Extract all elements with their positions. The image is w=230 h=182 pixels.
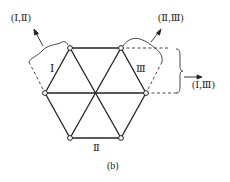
- region-label-left: Ⅰ: [50, 62, 54, 74]
- hexagon-diagram: (Ⅰ,Ⅱ) (Ⅱ,Ⅲ) (Ⅰ,Ⅲ) Ⅰ Ⅲ Ⅱ (b): [0, 0, 230, 182]
- node: [43, 91, 48, 96]
- pair-label-right: (Ⅰ,Ⅲ): [192, 79, 215, 91]
- node: [144, 91, 149, 96]
- cut-curves: [29, 38, 162, 62]
- right-brace: [176, 49, 183, 93]
- hexagon-edges: [45, 48, 146, 138]
- node: [68, 46, 73, 51]
- region-label-bottom: Ⅱ: [93, 142, 100, 153]
- pair-label-top-left: (Ⅰ,Ⅱ): [11, 12, 31, 24]
- pair-label-top-right: (Ⅱ,Ⅲ): [158, 12, 184, 24]
- node: [119, 46, 124, 51]
- node: [68, 136, 73, 141]
- node: [119, 136, 124, 141]
- figure-caption: (b): [107, 160, 119, 172]
- region-label-right: Ⅲ: [136, 63, 146, 74]
